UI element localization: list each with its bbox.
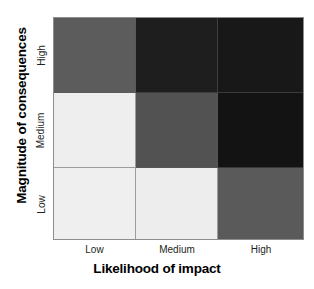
x-tick-high: High [218, 242, 304, 258]
heatmap-grid [53, 17, 304, 240]
y-tick-label: Medium [36, 113, 47, 149]
heatmap-cell-low-low [53, 168, 136, 240]
y-tick-label: High [35, 45, 46, 66]
heatmap-cell-high-medium [136, 17, 218, 93]
y-tick-medium: Medium [30, 93, 52, 168]
x-tick-low: Low [53, 242, 136, 258]
heatmap-cell-high-high [218, 17, 304, 93]
heatmap-cell-medium-medium [136, 93, 218, 168]
y-tick-high: High [30, 17, 52, 93]
x-axis-tick-labels: Low Medium High [53, 242, 304, 258]
y-axis-title: Magnitude of consequences [14, 1, 29, 231]
y-axis-tick-labels: High Medium Low [30, 17, 52, 240]
y-tick-low: Low [30, 168, 52, 240]
heatmap-cell-medium-low [53, 93, 136, 168]
heatmap-cell-low-high [218, 168, 304, 240]
y-tick-label: Low [35, 195, 46, 213]
heatmap-cell-medium-high [218, 93, 304, 168]
heatmap-cell-low-medium [136, 168, 218, 240]
x-tick-medium: Medium [136, 242, 218, 258]
risk-matrix-figure: Magnitude of consequences High Medium Lo… [0, 0, 314, 289]
heatmap-cell-high-low [53, 17, 136, 93]
x-axis-title: Likelihood of impact [0, 261, 314, 276]
